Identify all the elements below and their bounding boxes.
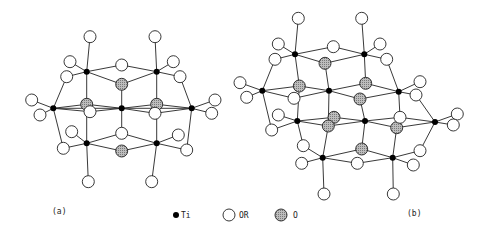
legend-item-ti: Ti	[173, 211, 191, 220]
ti-atom	[50, 105, 56, 111]
or-group	[116, 127, 128, 139]
oxo-atom	[116, 78, 128, 90]
legend-label-or: OR	[239, 211, 249, 220]
or-group	[451, 108, 463, 120]
or-group	[146, 176, 158, 188]
or-group	[318, 188, 330, 200]
legend: Ti OR O	[173, 209, 298, 221]
ti-atom	[154, 69, 160, 75]
oxo-atom-icon	[275, 209, 287, 221]
structure-b	[234, 12, 463, 200]
or-group-icon	[223, 209, 235, 221]
or-group	[234, 77, 246, 89]
or-group	[172, 129, 184, 141]
ti-atom	[119, 105, 125, 111]
ti-atom	[154, 140, 160, 146]
or-group	[394, 111, 406, 123]
or-group	[327, 41, 339, 53]
or-group	[288, 92, 300, 104]
or-group	[272, 38, 284, 50]
or-group	[266, 124, 278, 136]
ti-atom	[259, 88, 265, 94]
ti-atom	[362, 118, 368, 124]
or-group	[407, 159, 419, 171]
ti-atom	[320, 155, 326, 161]
oxo-atom	[356, 143, 368, 155]
ti-atom	[326, 88, 332, 94]
or-group	[84, 31, 96, 43]
ti-atom	[396, 89, 402, 95]
or-group	[381, 53, 393, 65]
or-group	[174, 71, 186, 83]
panel-label-b: (b)	[407, 209, 421, 218]
or-group	[241, 91, 253, 103]
or-group	[26, 94, 38, 106]
or-group	[84, 106, 96, 118]
or-group	[414, 76, 426, 88]
structure-a	[26, 31, 221, 188]
ti-atom	[432, 119, 438, 125]
legend-item-or: OR	[223, 209, 249, 221]
ti-atom-icon	[173, 212, 179, 218]
or-group	[64, 56, 76, 68]
or-group	[410, 89, 422, 101]
or-group	[297, 140, 309, 152]
or-group	[61, 71, 73, 83]
ti-atom	[292, 51, 298, 57]
or-group	[206, 107, 218, 119]
legend-label-ti: Ti	[181, 211, 191, 220]
or-group	[82, 176, 94, 188]
oxo-atom	[293, 80, 305, 92]
or-group	[34, 109, 46, 121]
legend-label-o: O	[293, 211, 298, 220]
or-group	[167, 56, 179, 68]
or-group	[149, 31, 161, 43]
oxo-atom	[116, 145, 128, 157]
legend-item-o: O	[275, 209, 298, 221]
titanium-oxo-alkoxide-cluster-diagram: (a) (b) Ti OR O	[0, 0, 487, 236]
or-group	[387, 188, 399, 200]
or-group	[57, 142, 69, 154]
oxo-atom	[354, 93, 366, 105]
ti-atom	[294, 118, 300, 124]
oxo-atom	[360, 77, 372, 89]
ti-atom	[361, 51, 367, 57]
or-group	[447, 119, 459, 131]
or-group	[414, 145, 426, 157]
ti-atom	[84, 140, 90, 146]
panel-label-a: (a)	[52, 207, 66, 216]
or-group	[374, 38, 386, 50]
oxo-atom	[319, 57, 331, 69]
or-group	[116, 59, 128, 71]
ti-atom	[84, 69, 90, 75]
or-group	[149, 107, 161, 119]
or-group	[209, 94, 221, 106]
or-group	[269, 53, 281, 65]
or-group	[292, 12, 304, 24]
or-group	[181, 144, 193, 156]
or-group	[272, 109, 284, 121]
or-group	[356, 12, 368, 24]
ti-atom	[390, 155, 396, 161]
ti-atom	[189, 105, 195, 111]
or-group	[296, 157, 308, 169]
oxo-atom	[322, 120, 334, 132]
or-group	[351, 157, 363, 169]
or-group	[66, 126, 78, 138]
